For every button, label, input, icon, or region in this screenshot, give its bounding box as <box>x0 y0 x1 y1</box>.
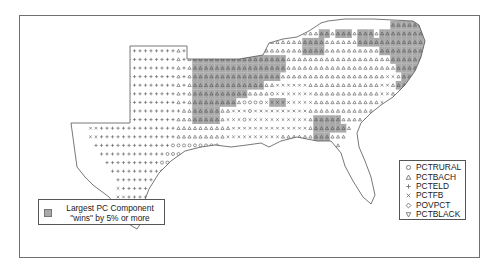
legend-item-pctrural: PCTRURAL <box>404 163 465 172</box>
figure-frame: Largest PC Component "wins" by 5% or mor… <box>19 15 480 258</box>
wins-legend-line1: Largest PC Component <box>56 203 164 213</box>
wins-legend: Largest PC Component "wins" by 5% or mor… <box>38 199 165 225</box>
circle-icon <box>404 163 413 172</box>
legend-label: PCTFB <box>416 191 443 200</box>
cross-icon <box>404 191 413 200</box>
triangle-up-icon <box>404 173 413 182</box>
wins-legend-line2: "wins" by 5% or more <box>56 213 164 223</box>
triangle-down-icon <box>404 210 413 219</box>
shaded-swatch-icon <box>44 209 52 217</box>
legend-item-pctblack: PCTBLACK <box>404 210 465 219</box>
legend-label: PCTBLACK <box>416 210 460 219</box>
plus-icon <box>404 182 413 191</box>
legend-label: PCTRURAL <box>416 163 461 172</box>
symbol-legend: PCTRURAL PCTBACH PCTELD PCTFB POVPCT PCT… <box>399 160 466 220</box>
diamond-icon <box>404 201 413 210</box>
wins-legend-text: Largest PC Component "wins" by 5% or mor… <box>56 203 164 223</box>
